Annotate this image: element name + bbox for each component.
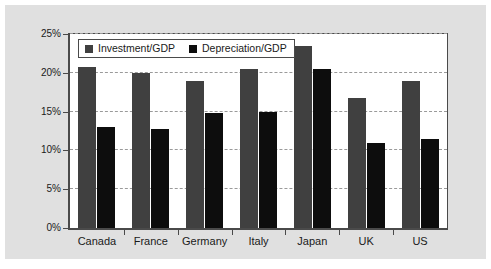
y-axis-tick-mark	[63, 189, 69, 190]
y-axis-tick-label: 0%	[9, 223, 61, 233]
legend-swatch-icon	[85, 45, 93, 53]
chart-figure: 0%5%10%15%20%25% Investment/GDPDepreciat…	[5, 5, 486, 259]
y-axis-tick-label: 25%	[9, 29, 61, 39]
gridline	[70, 33, 447, 34]
bar-japan-depreciation	[313, 69, 331, 228]
x-axis-tick-label-us: US	[412, 235, 427, 248]
x-axis-tick-label-uk: UK	[359, 235, 374, 248]
gridline	[70, 72, 447, 73]
x-axis-tick-label-germany: Germany	[182, 235, 227, 248]
y-axis-tick-mark	[63, 112, 69, 113]
y-axis-tick-mark	[63, 34, 69, 35]
chart-legend: Investment/GDPDepreciation/GDP	[78, 39, 295, 58]
y-axis-tick-label: 5%	[9, 184, 61, 194]
x-axis-tick-mark	[339, 230, 340, 235]
y-axis-labels: 0%5%10%15%20%25%	[5, 5, 61, 259]
x-axis-tick-mark	[393, 230, 394, 235]
y-axis-tick-label: 15%	[9, 107, 61, 117]
legend-label: Depreciation/GDP	[202, 43, 287, 54]
legend-entry-investment: Investment/GDP	[85, 43, 175, 54]
plot-area	[70, 34, 447, 228]
bar-france-investment	[132, 73, 150, 228]
legend-swatch-icon	[189, 45, 197, 53]
bar-us-investment	[402, 81, 420, 228]
y-axis-tick-mark	[63, 73, 69, 74]
y-axis-tick-mark	[63, 150, 69, 151]
x-axis-line	[68, 229, 448, 230]
y-axis-tick-label: 20%	[9, 68, 61, 78]
bar-germany-investment	[186, 81, 204, 228]
x-axis-tick-mark	[124, 230, 125, 235]
bar-japan-investment	[294, 46, 312, 228]
bar-uk-investment	[348, 98, 366, 228]
x-axis-tick-label-france: France	[134, 235, 168, 248]
y-axis-tick-mark	[63, 228, 69, 229]
plot-frame: Investment/GDPDepreciation/GDP	[69, 33, 448, 229]
bar-us-depreciation	[421, 139, 439, 228]
x-axis-tick-mark	[232, 230, 233, 235]
x-axis-tick-label-italy: Italy	[248, 235, 268, 248]
bar-france-depreciation	[151, 129, 169, 228]
legend-label: Investment/GDP	[98, 43, 175, 54]
x-axis-tick-mark	[285, 230, 286, 235]
y-axis-tick-label: 10%	[9, 145, 61, 155]
bar-canada-depreciation	[97, 127, 115, 228]
bar-germany-depreciation	[205, 113, 223, 228]
legend-entry-depreciation: Depreciation/GDP	[189, 43, 287, 54]
bar-uk-depreciation	[367, 143, 385, 228]
x-axis-tick-label-japan: Japan	[297, 235, 327, 248]
bar-italy-depreciation	[259, 112, 277, 228]
x-axis-tick-label-canada: Canada	[78, 235, 117, 248]
x-axis-tick-mark	[178, 230, 179, 235]
bar-italy-investment	[240, 69, 258, 228]
bar-canada-investment	[78, 67, 96, 228]
